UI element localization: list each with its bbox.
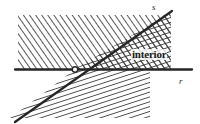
interior-label: interior xyxy=(131,49,167,60)
geometry-figure: s r interior xyxy=(0,0,200,124)
ray-r-label: r xyxy=(179,77,183,86)
vertex-point xyxy=(72,67,77,72)
figure-canvas xyxy=(0,0,200,124)
ray-s-label: s xyxy=(152,3,156,12)
